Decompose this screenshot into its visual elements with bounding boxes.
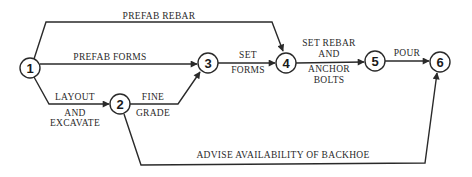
network-diagram: PREFAB REBAR PREFAB FORMS LAYOUT AND EXC…	[0, 0, 472, 177]
label-anchor: ANCHOR	[308, 64, 350, 74]
label-fine: FINE	[142, 92, 164, 102]
svg-text:3: 3	[204, 56, 211, 71]
label-prefab-forms: PREFAB FORMS	[73, 52, 146, 62]
svg-text:2: 2	[116, 97, 123, 112]
node-2: 2	[110, 94, 130, 114]
svg-text:6: 6	[436, 55, 443, 70]
svg-text:1: 1	[26, 61, 33, 76]
edge-set-rebar	[296, 62, 364, 63]
node-5: 5	[365, 51, 385, 71]
svg-text:4: 4	[282, 56, 290, 71]
label-prefab-rebar: PREFAB REBAR	[123, 11, 196, 21]
label-forms: FORMS	[231, 65, 265, 75]
node-1: 1	[20, 58, 40, 78]
label-and: AND	[64, 108, 85, 118]
node-6: 6	[430, 52, 450, 72]
label-layout: LAYOUT	[55, 92, 95, 102]
label-bolts: BOLTS	[314, 75, 345, 85]
edge-fine-grade	[130, 72, 200, 104]
label-set-rebar-and: AND	[318, 49, 339, 59]
node-4: 4	[276, 53, 296, 73]
svg-text:5: 5	[371, 54, 378, 69]
label-excavate: EXCAVATE	[50, 118, 100, 128]
label-grade: GRADE	[136, 108, 170, 118]
label-set: SET	[239, 50, 257, 60]
label-pour: POUR	[394, 48, 421, 58]
label-advise-backhoe: ADVISE AVAILABILITY OF BACKHOE	[196, 150, 369, 160]
node-3: 3	[198, 53, 218, 73]
label-set-rebar: SET REBAR	[302, 38, 356, 48]
